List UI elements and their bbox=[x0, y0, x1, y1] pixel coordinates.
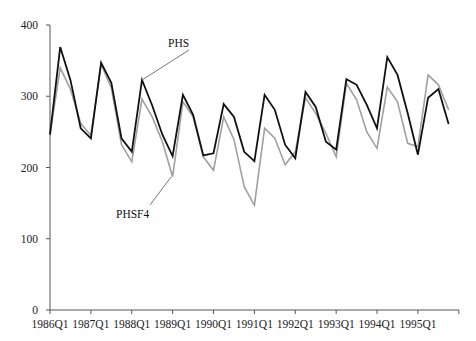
y-tick-label: 200 bbox=[21, 162, 39, 174]
x-tick-label: 1995Q1 bbox=[399, 318, 436, 330]
x-tick-label: 1994Q1 bbox=[359, 318, 396, 330]
x-tick-label: 1993Q1 bbox=[318, 318, 355, 330]
y-axis: 0100200300400 bbox=[21, 19, 50, 316]
x-tick-label: 1986Q1 bbox=[31, 318, 68, 330]
phsf4-pointer-line bbox=[150, 177, 171, 205]
x-tick-label: 1987Q1 bbox=[72, 318, 109, 330]
phs-series-line bbox=[50, 47, 449, 161]
y-tick-label: 100 bbox=[21, 233, 39, 245]
y-tick-label: 300 bbox=[21, 90, 39, 102]
phs-pointer-line bbox=[142, 50, 189, 80]
phsf4-series-line bbox=[50, 64, 449, 205]
x-tick-label: 1990Q1 bbox=[195, 318, 232, 330]
phsf4-label: PHSF4 bbox=[116, 208, 149, 220]
x-axis: 1986Q11987Q11988Q11989Q11990Q11991Q11992… bbox=[31, 310, 458, 330]
x-tick-label: 1989Q1 bbox=[154, 318, 191, 330]
x-tick-label: 1992Q1 bbox=[277, 318, 314, 330]
y-tick-label: 400 bbox=[21, 19, 39, 31]
series-layer bbox=[50, 47, 449, 205]
y-tick-label: 0 bbox=[32, 304, 38, 316]
line-chart: 0100200300400 1986Q11987Q11988Q11989Q119… bbox=[0, 0, 476, 341]
x-tick-label: 1991Q1 bbox=[236, 318, 273, 330]
x-tick-label: 1988Q1 bbox=[113, 318, 150, 330]
phs-label: PHS bbox=[168, 37, 189, 49]
